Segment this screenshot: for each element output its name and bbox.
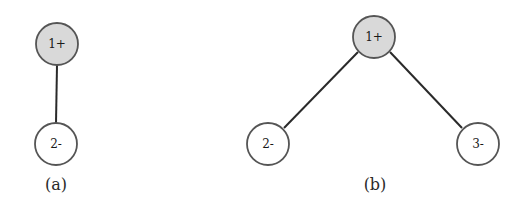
figure-b: 1+ 2- 3- (b) bbox=[247, 16, 499, 194]
node-a-1: 1+ bbox=[36, 23, 78, 65]
figure-a: 1+ 2- (a) bbox=[35, 23, 78, 194]
node-label: 2- bbox=[262, 137, 274, 151]
node-a-2: 2- bbox=[35, 123, 77, 165]
node-label: 1+ bbox=[365, 30, 383, 44]
node-b-3: 3- bbox=[457, 123, 499, 165]
edge-b-1-2 bbox=[284, 52, 358, 128]
node-b-1: 1+ bbox=[353, 16, 395, 58]
edge-b-1-3 bbox=[390, 52, 462, 128]
node-label: 1+ bbox=[48, 37, 66, 51]
edge-a-1-2 bbox=[56, 65, 57, 123]
node-label: 3- bbox=[472, 137, 484, 151]
tree-diagrams: 1+ 2- (a) 1+ 2- 3- (b) bbox=[0, 0, 526, 213]
caption-b: (b) bbox=[364, 175, 387, 194]
node-label: 2- bbox=[50, 137, 62, 151]
node-b-2: 2- bbox=[247, 123, 289, 165]
caption-a: (a) bbox=[45, 175, 67, 194]
